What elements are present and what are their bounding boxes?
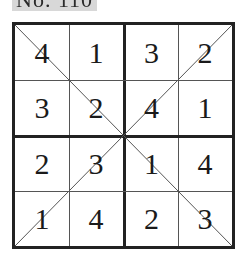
- cell-r1-c3: 3: [125, 25, 178, 80]
- cell-r4-c4: 3: [178, 191, 232, 246]
- cell-r1-c1: 4: [15, 25, 69, 80]
- cell-r4-c1: 1: [15, 191, 69, 246]
- cell-r3-c4: 4: [178, 137, 232, 191]
- puzzle-title: No. 110: [12, 0, 97, 11]
- cell-r4-c3: 2: [125, 191, 178, 246]
- cell-r2-c2: 2: [69, 80, 123, 135]
- cell-r1-c2: 1: [69, 25, 123, 80]
- cell-r2-c3: 4: [125, 80, 178, 135]
- cell-r1-c4: 2: [178, 25, 232, 80]
- cell-r4-c2: 4: [69, 191, 123, 246]
- cell-r2-c4: 1: [178, 80, 232, 135]
- cell-r3-c2: 3: [69, 137, 123, 191]
- cell-r2-c1: 3: [15, 80, 69, 135]
- sudoku-grid: 4 1 3 2 3 2 4 1 2 3 1 4 1 4 2 3: [12, 22, 235, 249]
- cell-r3-c3: 1: [125, 137, 178, 191]
- cell-r3-c1: 2: [15, 137, 69, 191]
